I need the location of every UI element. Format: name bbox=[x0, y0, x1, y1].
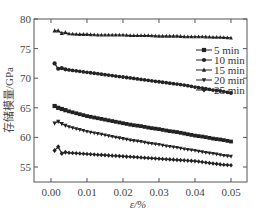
diamond-marker-icon bbox=[168, 157, 172, 162]
circle-marker-icon bbox=[118, 75, 122, 79]
diamond-marker-icon bbox=[136, 155, 140, 160]
square-marker-icon bbox=[139, 124, 143, 128]
square-marker-icon bbox=[172, 130, 176, 134]
diamond-marker-icon bbox=[200, 160, 204, 165]
circle-marker-icon bbox=[71, 68, 75, 72]
square-marker-icon bbox=[60, 107, 64, 111]
diamond-marker-icon bbox=[197, 159, 201, 164]
circle-marker-icon bbox=[110, 74, 114, 78]
square-marker-icon bbox=[121, 121, 125, 125]
square-marker-icon bbox=[222, 138, 226, 142]
diamond-marker-icon bbox=[139, 155, 143, 160]
circle-marker-icon bbox=[175, 82, 179, 86]
diamond-marker-icon bbox=[157, 156, 161, 161]
square-marker-icon bbox=[92, 116, 96, 120]
circle-marker-icon bbox=[114, 74, 118, 78]
square-marker-icon bbox=[63, 108, 67, 112]
circle-marker-icon bbox=[60, 66, 64, 70]
square-marker-icon bbox=[71, 110, 75, 114]
square-marker-icon bbox=[161, 128, 165, 132]
series-25-min bbox=[53, 144, 233, 167]
circle-marker-icon bbox=[190, 84, 194, 88]
diamond-marker-icon bbox=[229, 163, 233, 168]
square-marker-icon bbox=[67, 109, 71, 113]
diamond-marker-icon bbox=[186, 158, 190, 163]
circle-marker-icon bbox=[74, 69, 78, 73]
square-marker-icon bbox=[114, 120, 118, 124]
circle-marker-icon bbox=[172, 82, 176, 86]
triangle-down-marker-icon bbox=[53, 121, 57, 125]
square-marker-icon bbox=[175, 130, 179, 134]
circle-marker-icon bbox=[103, 73, 107, 77]
y-tick-label: 65 bbox=[20, 102, 32, 114]
diamond-marker-icon bbox=[143, 155, 147, 160]
square-marker-icon bbox=[107, 118, 111, 122]
square-marker-icon bbox=[128, 123, 132, 127]
circle-marker-icon bbox=[121, 75, 125, 79]
square-marker-icon bbox=[226, 139, 230, 143]
circle-marker-icon bbox=[150, 79, 154, 83]
square-marker-icon bbox=[53, 104, 57, 108]
diamond-marker-icon bbox=[204, 160, 208, 165]
y-axis-label: 存储模量/GPa bbox=[2, 67, 15, 133]
storage-modulus-chart: 0.000.010.020.030.040.05 556065707580 ε/… bbox=[0, 0, 260, 220]
diamond-marker-icon bbox=[125, 154, 129, 159]
y-tick-label: 60 bbox=[20, 131, 32, 143]
circle-marker-icon bbox=[53, 61, 57, 65]
circle-marker-icon bbox=[186, 84, 190, 88]
square-marker-icon bbox=[154, 127, 158, 131]
diamond-marker-icon bbox=[154, 156, 158, 161]
circle-marker-icon bbox=[128, 76, 132, 80]
square-marker-icon bbox=[164, 129, 168, 133]
diamond-marker-icon bbox=[208, 161, 212, 166]
circle-marker-icon bbox=[154, 79, 158, 83]
square-marker-icon bbox=[96, 116, 100, 120]
circle-marker-icon bbox=[146, 78, 150, 82]
circle-marker-icon bbox=[85, 70, 89, 74]
circle-marker-icon bbox=[92, 71, 96, 75]
circle-marker-icon bbox=[89, 71, 93, 75]
circle-marker-icon bbox=[100, 72, 104, 76]
diamond-marker-icon bbox=[172, 157, 176, 162]
diamond-marker-icon bbox=[211, 161, 215, 166]
square-marker-icon bbox=[85, 114, 89, 118]
diamond-marker-icon bbox=[226, 163, 230, 168]
diamond-marker-icon bbox=[193, 159, 197, 164]
square-marker-icon bbox=[56, 106, 60, 110]
square-marker-icon bbox=[110, 119, 114, 123]
diamond-marker-icon bbox=[107, 153, 111, 158]
x-tick-label: 0.05 bbox=[221, 186, 241, 198]
y-tick-label: 70 bbox=[20, 72, 32, 84]
circle-marker-icon bbox=[193, 85, 197, 89]
circle-marker-icon bbox=[168, 81, 172, 85]
square-marker-icon bbox=[150, 126, 154, 130]
diamond-marker-icon bbox=[114, 154, 118, 159]
square-marker-icon bbox=[186, 132, 190, 136]
square-marker-icon bbox=[100, 117, 104, 121]
diamond-marker-icon bbox=[190, 159, 194, 164]
square-marker-icon bbox=[157, 127, 161, 131]
diamond-marker-icon bbox=[92, 152, 96, 157]
diamond-marker-icon bbox=[222, 162, 226, 167]
square-marker-icon bbox=[78, 112, 82, 116]
square-marker-icon bbox=[193, 134, 197, 138]
x-tick-label: 0.02 bbox=[113, 186, 132, 198]
diamond-marker-icon bbox=[82, 151, 86, 156]
legend-item: 25 min bbox=[196, 84, 245, 96]
diamond-marker-icon bbox=[132, 155, 136, 160]
diamond-marker-icon bbox=[128, 155, 132, 160]
y-tick-label: 55 bbox=[20, 161, 32, 173]
diamond-marker-icon bbox=[121, 154, 125, 159]
circle-marker-icon bbox=[56, 67, 60, 71]
circle-marker-icon bbox=[182, 83, 186, 87]
series-15-min bbox=[53, 28, 233, 39]
square-marker-icon bbox=[215, 137, 219, 141]
square-marker-icon bbox=[118, 121, 122, 125]
square-marker-icon bbox=[143, 125, 147, 129]
square-marker-icon bbox=[132, 123, 136, 127]
x-axis: 0.000.010.020.030.040.05 bbox=[41, 19, 241, 198]
square-marker-icon bbox=[200, 135, 204, 139]
x-tick-label: 0.00 bbox=[41, 186, 61, 198]
square-marker-icon bbox=[218, 138, 222, 142]
square-marker-icon bbox=[136, 124, 140, 128]
